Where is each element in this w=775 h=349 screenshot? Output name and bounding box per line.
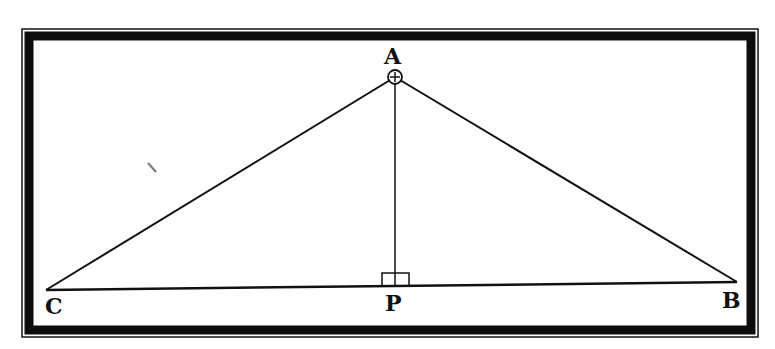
label-c: C <box>45 293 63 319</box>
label-a: A <box>383 43 402 69</box>
circle-plus-icon <box>388 70 402 84</box>
side-ac <box>46 77 395 290</box>
side-ab <box>395 77 737 282</box>
label-p: P <box>385 290 402 316</box>
label-b: B <box>722 287 741 313</box>
diagram-canvas: A C P B <box>0 0 775 349</box>
stray-mark <box>148 163 156 172</box>
